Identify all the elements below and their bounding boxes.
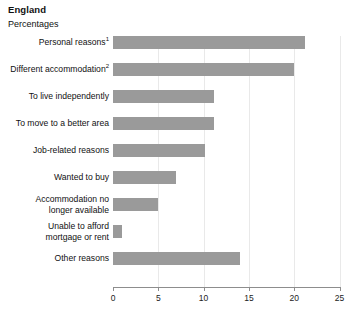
category-label: To live independently <box>5 91 113 102</box>
x-tick-mark-0 <box>113 287 114 291</box>
category-label: To move to a better area <box>5 118 113 129</box>
x-tick-mark-10 <box>204 287 205 291</box>
x-axis-line <box>113 287 340 288</box>
x-tick-label: 5 <box>156 293 161 303</box>
category-label-line: longer available <box>5 205 109 216</box>
bar <box>113 36 305 49</box>
bar-row <box>113 171 339 184</box>
category-label: Other reasons <box>5 253 113 264</box>
category-label-line: Wanted to buy <box>5 172 109 183</box>
bar <box>113 225 122 238</box>
bar <box>113 144 205 157</box>
footnote-marker: 1 <box>106 36 109 42</box>
bar-row <box>113 144 339 157</box>
bar-row <box>113 198 339 211</box>
category-label-line: Personal reasons1 <box>5 37 109 48</box>
bar <box>113 90 214 103</box>
bar <box>113 63 294 76</box>
category-label-line: mortgage or rent <box>5 232 109 243</box>
bar <box>113 252 240 265</box>
bar <box>113 117 214 130</box>
x-tick-mark-25 <box>340 287 341 291</box>
x-tick-mark-5 <box>158 287 159 291</box>
category-label-line: Job-related reasons <box>5 145 109 156</box>
x-tick-mark-20 <box>294 287 295 291</box>
bar-row <box>113 90 339 103</box>
category-label-line: Different accommodation2 <box>5 64 109 75</box>
bar <box>113 198 158 211</box>
bar-row <box>113 117 339 130</box>
bar-row <box>113 63 339 76</box>
category-label: Wanted to buy <box>5 172 113 183</box>
category-label-line: Other reasons <box>5 253 109 264</box>
x-tick-label: 20 <box>289 293 298 303</box>
bar-chart-figure: England Percentages Personal reasons1Dif… <box>0 0 351 315</box>
bar-row <box>113 225 339 238</box>
x-tick-label: 0 <box>111 293 116 303</box>
bar <box>113 171 176 184</box>
category-label: Personal reasons1 <box>5 37 113 48</box>
page-title: England <box>8 4 46 15</box>
gridline-25 <box>340 36 341 287</box>
category-label: Job-related reasons <box>5 145 113 156</box>
category-label-line: To move to a better area <box>5 118 109 129</box>
x-tick-label: 15 <box>244 293 253 303</box>
footnote-marker: 2 <box>106 63 109 69</box>
category-label: Unable to affordmortgage or rent <box>5 221 113 242</box>
bar-row <box>113 36 339 49</box>
category-label-line: Accommodation no <box>5 194 109 205</box>
category-label-line: Unable to afford <box>5 221 109 232</box>
category-label: Different accommodation2 <box>5 64 113 75</box>
y-axis-category-labels: Personal reasons1Different accommodation… <box>0 36 113 287</box>
x-tick-label: 10 <box>199 293 208 303</box>
x-tick-label: 25 <box>335 293 344 303</box>
units-subtitle: Percentages <box>8 19 59 29</box>
category-label-line: To live independently <box>5 91 109 102</box>
plot-area <box>113 36 339 287</box>
category-label: Accommodation nolonger available <box>5 194 113 215</box>
bar-row <box>113 252 339 265</box>
x-tick-mark-15 <box>249 287 250 291</box>
